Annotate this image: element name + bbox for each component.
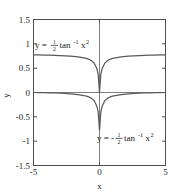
lower-label-frac-numerator: 1	[118, 132, 121, 138]
upper-label-lhs: y =	[35, 40, 47, 50]
x-tick-label: 0	[97, 167, 102, 177]
x-tick-label: -5	[30, 167, 38, 177]
lower-label-function: tan	[124, 133, 135, 143]
y-tick-label: -1	[23, 136, 31, 146]
upper-label-frac-numerator: 1	[53, 39, 56, 45]
x-axis-title: x	[97, 181, 102, 191]
lower-label-frac-denominator: 2	[118, 139, 121, 145]
x-tick-label: 5	[163, 167, 168, 177]
chart-figure: 1.5 1 0.5 0 -0.5 -1 -1.5 -5 0 5 x y y = …	[0, 0, 177, 195]
y-tick-label: 1	[26, 39, 31, 49]
lower-label-lhs: y = -	[97, 133, 114, 143]
y-axis-title: y	[1, 93, 11, 98]
plot-canvas: 1.5 1 0.5 0 -0.5 -1 -1.5 -5 0 5 x y y = …	[0, 0, 177, 195]
upper-label-frac-denominator: 2	[53, 46, 56, 52]
upper-label-function: tan	[60, 40, 71, 50]
y-tick-label: 0.5	[19, 63, 31, 73]
y-tick-label: 1.5	[19, 15, 31, 25]
lower-label-argument-superscript: 2	[151, 131, 154, 138]
y-tick-label: 0	[26, 88, 31, 98]
annotation-upper-label: y = 1 2 tan -1 x 2	[35, 38, 89, 52]
annotation-lower-label: y = - 1 2 tan -1 x 2	[97, 131, 154, 145]
y-tick-label: -0.5	[16, 112, 31, 122]
upper-label-function-superscript: -1	[74, 38, 79, 45]
lower-label-function-superscript: -1	[138, 131, 143, 138]
y-tick-label: -1.5	[16, 161, 31, 171]
upper-label-argument-superscript: 2	[86, 38, 89, 45]
